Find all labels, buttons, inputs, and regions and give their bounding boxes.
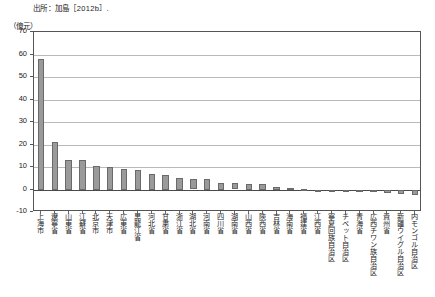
x-axis-tick-mark xyxy=(276,211,277,214)
chart-figure: 出所：加島［2012b］. （億元） 上海市遼寧省山東省江蘇省北京市天津市広東省… xyxy=(0,0,435,297)
x-axis-tick-mark xyxy=(220,211,221,214)
x-axis-tick-label: 新疆ウイグル自治区 xyxy=(396,213,404,276)
x-axis-tick-label: 黒龍江省 xyxy=(133,213,141,241)
gridline xyxy=(34,145,420,146)
x-axis-tick-mark xyxy=(386,211,387,214)
bar xyxy=(315,190,321,192)
x-axis-tick-mark xyxy=(206,211,207,214)
x-axis-tick-mark xyxy=(192,211,193,214)
x-axis-tick-label: 北京市 xyxy=(91,213,99,234)
x-axis-tick-label: 上海市 xyxy=(36,213,44,234)
gridline xyxy=(34,122,420,123)
x-axis-tick-label: 四川省 xyxy=(216,213,224,234)
bar xyxy=(190,179,196,190)
bar xyxy=(52,142,58,189)
x-axis-tick-label: チベット自治区 xyxy=(341,213,349,262)
x-axis-tick-label: 貴州省 xyxy=(382,213,390,234)
x-axis-tick-label: 内モンゴル自治区 xyxy=(410,213,418,269)
x-axis-tick-mark xyxy=(137,211,138,214)
bar xyxy=(107,167,113,190)
x-axis-tick-mark xyxy=(54,211,55,214)
y-axis-tick-mark xyxy=(30,211,33,212)
x-axis-tick-mark xyxy=(82,211,83,214)
bar xyxy=(301,189,307,191)
x-axis-tick-label: 甘粛省 xyxy=(161,213,169,234)
x-axis-tick-mark xyxy=(303,211,304,214)
x-axis-tick-label: 天津市 xyxy=(105,213,113,234)
bar xyxy=(259,184,265,190)
x-axis-tick-mark xyxy=(151,211,152,214)
x-axis-tick-mark xyxy=(373,211,374,214)
x-axis-tick-mark xyxy=(95,211,96,214)
x-axis-tick-mark xyxy=(40,211,41,214)
bar xyxy=(38,59,44,190)
x-axis-tick-label: 福建省 xyxy=(299,213,307,234)
y-axis-tick-mark xyxy=(30,31,33,32)
x-axis-tick-label: 海南省 xyxy=(285,213,293,234)
bar xyxy=(121,169,127,189)
x-axis-tick-mark xyxy=(234,211,235,214)
x-axis-tick-mark xyxy=(179,211,180,214)
gridline xyxy=(34,55,420,56)
y-axis-tick-label: 40 xyxy=(0,94,27,103)
bar xyxy=(162,175,168,190)
x-axis-tick-label: 浙江省 xyxy=(175,213,183,234)
y-axis-tick-mark xyxy=(30,144,33,145)
x-axis-tick-label: 広西チワン族自治区 xyxy=(369,213,377,276)
bar xyxy=(356,190,362,192)
y-axis-tick-label: 50 xyxy=(0,71,27,80)
bar xyxy=(149,174,155,190)
source-note: 出所：加島［2012b］. xyxy=(33,2,109,13)
x-axis-tick-mark xyxy=(262,211,263,214)
bar xyxy=(412,190,418,196)
bar xyxy=(246,184,252,190)
y-axis-tick-mark xyxy=(30,189,33,190)
x-axis-tick-label: 青海省 xyxy=(355,213,363,234)
x-axis-tick-label: 遼寧省 xyxy=(50,213,58,234)
x-axis-tick-label: 湖北省 xyxy=(188,213,196,234)
x-axis-tick-label: 河南省 xyxy=(202,213,210,234)
y-axis-tick-label: 60 xyxy=(0,49,27,58)
x-axis-tick-label: 山西省 xyxy=(244,213,252,234)
x-axis-tick-label: 山東省 xyxy=(64,213,72,234)
x-axis-tick-mark xyxy=(289,211,290,214)
y-axis-tick-label: 20 xyxy=(0,139,27,148)
bar xyxy=(329,190,335,192)
y-axis-tick-mark xyxy=(30,121,33,122)
bar xyxy=(287,188,293,190)
x-axis-tick-label: 寧夏回族自治区 xyxy=(327,213,335,262)
bar xyxy=(273,187,279,189)
bar xyxy=(343,190,349,192)
x-axis-tick-mark xyxy=(414,211,415,214)
x-axis-tick-mark xyxy=(123,211,124,214)
x-axis-tick-mark xyxy=(165,211,166,214)
x-axis-tick-mark xyxy=(400,211,401,214)
bar xyxy=(135,170,141,189)
x-axis-tick-mark xyxy=(345,211,346,214)
bar xyxy=(218,183,224,190)
y-axis-tick-mark xyxy=(30,99,33,100)
y-axis-tick-mark xyxy=(30,76,33,77)
y-axis-tick-label: -10 xyxy=(0,206,27,215)
x-axis-tick-label: 湖南省 xyxy=(230,213,238,234)
x-axis-tick-mark xyxy=(248,211,249,214)
bar xyxy=(384,190,390,193)
x-axis-tick-label: 陝西省 xyxy=(258,213,266,234)
x-axis-tick-label: 江蘇省 xyxy=(78,213,86,234)
x-axis-labels: 上海市遼寧省山東省江蘇省北京市天津市広東省黒龍江省河北省甘粛省浙江省湖北省河南省… xyxy=(33,213,421,297)
y-axis-tick-label: 70 xyxy=(0,26,27,35)
x-axis-tick-label: 河北省 xyxy=(147,213,155,234)
x-axis-tick-mark xyxy=(68,211,69,214)
bar xyxy=(370,190,376,193)
x-axis-tick-mark xyxy=(109,211,110,214)
gridline xyxy=(34,167,420,168)
y-axis-tick-label: 10 xyxy=(0,161,27,170)
bar xyxy=(176,178,182,189)
x-axis-tick-mark xyxy=(359,211,360,214)
plot-area xyxy=(33,31,421,211)
x-axis-tick-label: 吉林省 xyxy=(272,213,280,234)
y-axis-tick-mark xyxy=(30,166,33,167)
bar xyxy=(65,160,71,189)
bar xyxy=(93,166,99,190)
bar xyxy=(204,179,210,189)
